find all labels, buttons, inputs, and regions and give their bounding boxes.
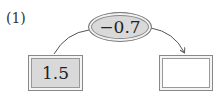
input-value: 1.5	[42, 63, 69, 83]
operator-ellipse: −0.7	[88, 12, 152, 42]
problem-label: (1)	[6, 10, 26, 26]
answer-box[interactable]	[159, 55, 213, 91]
operator-value: −0.7	[99, 17, 140, 37]
input-box: 1.5	[28, 55, 83, 91]
connector-line	[54, 30, 89, 54]
arrow-to-output	[151, 28, 184, 52]
